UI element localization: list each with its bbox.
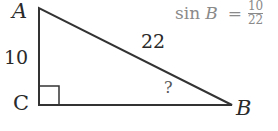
right-triangle-figure: A 10 C 22 ? B sin B = 10 22 <box>0 0 278 131</box>
side-label-ac: 10 <box>4 48 28 67</box>
vertex-label-a: A <box>12 1 27 22</box>
angle-b-unknown-label: ? <box>164 80 173 96</box>
vertex-label-c: C <box>13 93 29 114</box>
formula-numerator: 10 <box>248 0 263 13</box>
side-label-ab: 22 <box>141 32 165 51</box>
formula-var: B <box>205 3 218 23</box>
vertex-label-b: B <box>236 98 251 119</box>
formula-sin: sin <box>175 3 200 23</box>
formula-equals: = <box>228 3 242 23</box>
sine-formula: sin B = 10 22 <box>175 0 263 26</box>
formula-denominator: 22 <box>248 14 263 27</box>
formula-fraction: 10 22 <box>248 0 263 26</box>
right-angle-marker <box>39 86 59 105</box>
